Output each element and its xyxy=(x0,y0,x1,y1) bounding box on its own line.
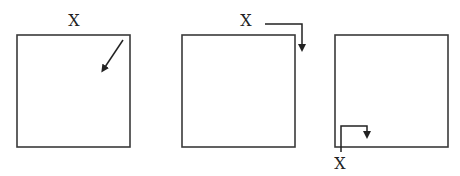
panel-2: X xyxy=(182,11,302,147)
hook-arrow-down-icon xyxy=(341,126,367,152)
x-label-3: X xyxy=(334,154,346,173)
square-1 xyxy=(17,35,130,147)
square-2 xyxy=(182,35,295,147)
panel-3: X xyxy=(334,35,448,173)
diagram-canvas: X X X xyxy=(0,0,460,176)
panel-1: X xyxy=(17,11,130,147)
x-label-2: X xyxy=(240,11,252,30)
square-3 xyxy=(335,35,448,147)
diagonal-arrow-icon xyxy=(103,40,123,70)
bent-arrow-down-icon xyxy=(265,24,302,49)
x-label-1: X xyxy=(68,11,80,30)
